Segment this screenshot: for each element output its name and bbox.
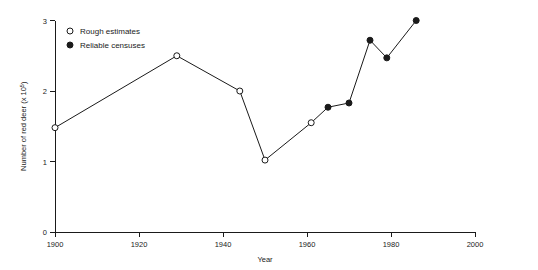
- data-point-filled-marker: [367, 37, 373, 43]
- data-point-filled-marker: [325, 104, 331, 110]
- data-series: [52, 18, 419, 164]
- data-point-open-marker: [262, 157, 268, 163]
- data-point-open-marker: [52, 125, 58, 131]
- x-tick-label: 1940: [215, 240, 232, 249]
- axes: [55, 21, 475, 233]
- legend-label: Rough estimates: [80, 27, 140, 36]
- data-point-open-marker: [174, 53, 180, 59]
- x-tick-label: 1960: [299, 240, 316, 249]
- x-tick-label: 1900: [47, 240, 64, 249]
- x-tick-label: 2000: [467, 240, 484, 249]
- x-tick-label: 1980: [383, 240, 400, 249]
- chart-container: 190019201940196019802000 0123 Year Numbe…: [0, 0, 538, 270]
- legend-label: Reliable censuses: [80, 41, 145, 50]
- y-tick-label: 1: [43, 158, 47, 167]
- y-tick-label: 0: [43, 228, 47, 237]
- y-axis-title: Number of red deer (x 105): [19, 81, 29, 171]
- x-axis-ticks: 190019201940196019802000: [47, 232, 484, 249]
- data-point-filled-marker: [413, 18, 419, 24]
- y-axis-title-base: Number of red deer (x 10: [19, 87, 28, 171]
- y-axis-title-close: ): [19, 81, 28, 84]
- data-point-filled-marker: [384, 55, 390, 61]
- data-point-open-marker: [237, 88, 243, 94]
- line-chart: 190019201940196019802000 0123 Year Numbe…: [0, 0, 538, 270]
- y-tick-label: 3: [43, 17, 47, 26]
- data-point-open-marker: [308, 120, 314, 126]
- data-point-filled-marker: [346, 100, 352, 106]
- x-axis-title: Year: [257, 255, 273, 264]
- x-tick-label: 1920: [131, 240, 148, 249]
- y-tick-label: 2: [43, 87, 47, 96]
- legend-open-circle-icon: [67, 28, 73, 34]
- data-point-markers: [52, 18, 419, 164]
- legend: Rough estimatesReliable censuses: [67, 27, 145, 50]
- legend-filled-circle-icon: [67, 42, 73, 48]
